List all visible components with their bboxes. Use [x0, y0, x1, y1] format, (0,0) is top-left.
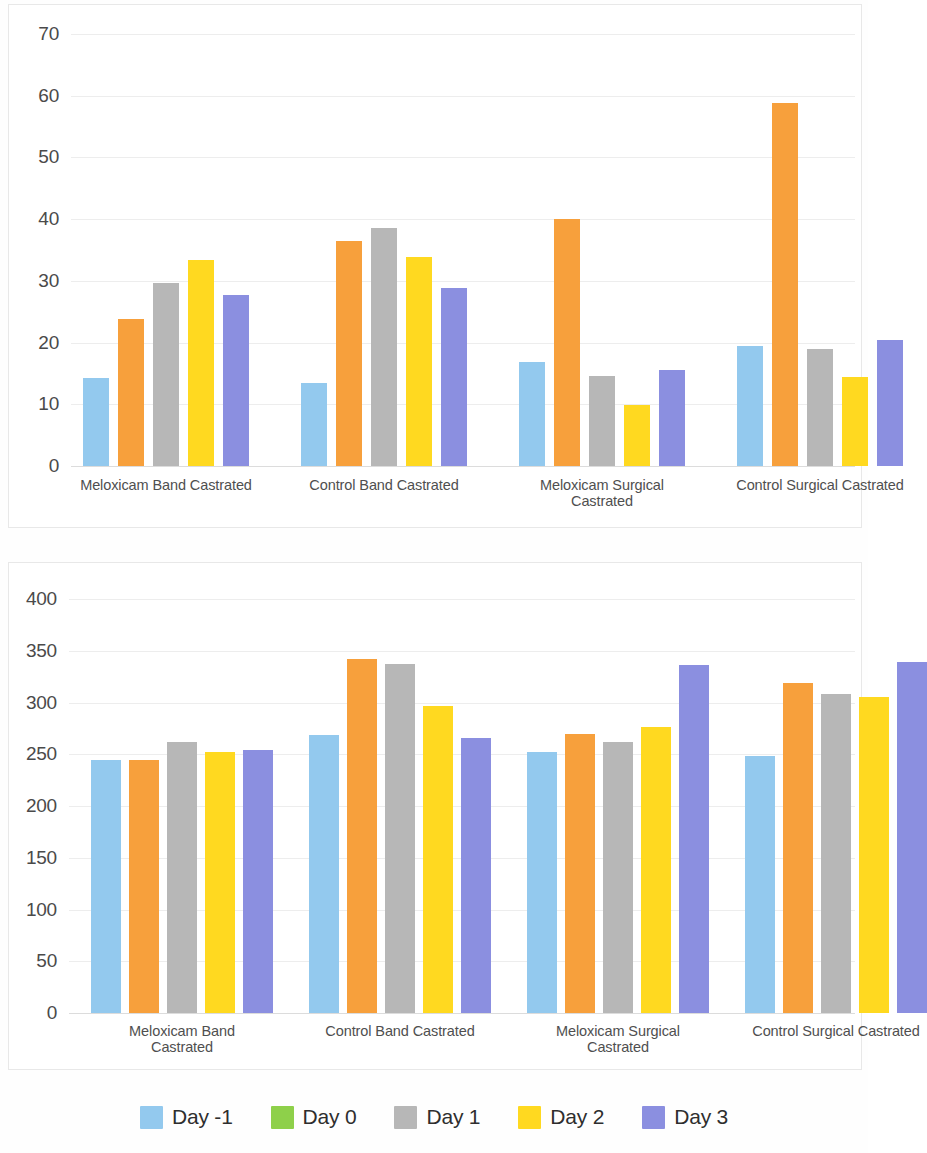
- bar: [167, 742, 197, 1013]
- bar: [188, 260, 214, 466]
- y-axis-tick-label: 100: [9, 899, 57, 921]
- y-axis-tick-label: 70: [9, 23, 59, 45]
- plot-area-bottom: 050100150200250300350400Meloxicam BandCa…: [9, 563, 861, 1069]
- gridline: [71, 34, 855, 35]
- bar: [519, 362, 545, 466]
- axis-baseline: [71, 466, 855, 467]
- x-axis-group-label: Control Band Castrated: [325, 1023, 474, 1039]
- bar: [565, 734, 595, 1013]
- y-axis-tick-label: 400: [9, 588, 57, 610]
- bar: [859, 697, 889, 1013]
- legend-swatch-icon: [518, 1106, 541, 1129]
- chart-legend: Day -1Day 0Day 1Day 2Day 3: [0, 1105, 868, 1129]
- legend-item-label: Day 1: [426, 1105, 480, 1129]
- bar: [783, 683, 813, 1013]
- bar: [589, 376, 615, 466]
- y-axis-tick-label: 50: [9, 950, 57, 972]
- bar: [821, 694, 851, 1013]
- y-axis-tick-label: 150: [9, 847, 57, 869]
- x-axis-group-label: Meloxicam BandCastrated: [129, 1023, 235, 1055]
- bar: [118, 319, 144, 466]
- legend-item-label: Day 0: [303, 1105, 357, 1129]
- y-axis-tick-label: 200: [9, 795, 57, 817]
- bar: [129, 760, 159, 1013]
- bar: [406, 257, 432, 466]
- legend-item[interactable]: Day 2: [518, 1105, 604, 1129]
- x-axis-group-label-line1: Meloxicam Surgical: [540, 477, 664, 493]
- legend-item[interactable]: Day 1: [394, 1105, 480, 1129]
- y-axis-tick-label: 10: [9, 393, 59, 415]
- bar: [243, 750, 273, 1013]
- x-axis-group-label-line2: Castrated: [129, 1039, 235, 1055]
- legend-item-label: Day 2: [550, 1105, 604, 1129]
- plot-area-top: 010203040506070Meloxicam Band CastratedC…: [9, 5, 861, 527]
- bar: [807, 349, 833, 466]
- legend-swatch-icon: [394, 1106, 417, 1129]
- y-axis-tick-label: 0: [9, 1002, 57, 1024]
- y-axis-tick-label: 20: [9, 332, 59, 354]
- bar: [679, 665, 709, 1013]
- y-axis-tick-label: 350: [9, 640, 57, 662]
- chart-panel-bottom: 050100150200250300350400Meloxicam BandCa…: [8, 562, 862, 1070]
- bar: [772, 103, 798, 466]
- bar: [153, 283, 179, 466]
- bar: [301, 383, 327, 466]
- y-axis-tick-label: 0: [9, 455, 59, 477]
- x-axis-group-label-line1: Meloxicam Surgical: [556, 1023, 680, 1039]
- y-axis-tick-label: 50: [9, 146, 59, 168]
- bar: [897, 662, 927, 1013]
- bar: [441, 288, 467, 466]
- bar: [91, 760, 121, 1013]
- bar: [745, 756, 775, 1013]
- bar: [527, 752, 557, 1013]
- bar: [737, 346, 763, 466]
- bar: [223, 295, 249, 466]
- bar: [371, 228, 397, 466]
- y-axis-tick-label: 30: [9, 270, 59, 292]
- chart-panel-top: 010203040506070Meloxicam Band CastratedC…: [8, 4, 862, 528]
- x-axis-group-label: Meloxicam SurgicalCastrated: [540, 477, 664, 509]
- x-axis-group-label-line2: Castrated: [540, 493, 664, 509]
- bar: [83, 378, 109, 466]
- bar: [603, 742, 633, 1013]
- x-axis-group-label-line1: Control Surgical Castrated: [752, 1023, 919, 1039]
- legend-item[interactable]: Day 0: [271, 1105, 357, 1129]
- legend-swatch-icon: [642, 1106, 665, 1129]
- bar: [347, 659, 377, 1013]
- gridline: [71, 219, 855, 220]
- gridline: [71, 96, 855, 97]
- x-axis-group-label: Meloxicam Band Castrated: [80, 477, 252, 493]
- legend-item[interactable]: Day 3: [642, 1105, 728, 1129]
- x-axis-group-label-line1: Control Band Castrated: [325, 1023, 474, 1039]
- x-axis-group-label: Control Surgical Castrated: [752, 1023, 919, 1039]
- x-axis-group-label-line1: Meloxicam Band Castrated: [80, 477, 252, 493]
- legend-item[interactable]: Day -1: [140, 1105, 233, 1129]
- bar: [309, 735, 339, 1013]
- gridline: [69, 703, 855, 704]
- bar: [385, 664, 415, 1013]
- bar: [877, 340, 903, 466]
- bar: [554, 219, 580, 466]
- y-axis-tick-label: 250: [9, 743, 57, 765]
- gridline: [69, 599, 855, 600]
- bar: [205, 752, 235, 1013]
- bar: [659, 370, 685, 466]
- bar: [461, 738, 491, 1013]
- x-axis-group-label-line1: Meloxicam Band: [129, 1023, 235, 1039]
- legend-item-label: Day 3: [674, 1105, 728, 1129]
- x-axis-group-label: Control Band Castrated: [309, 477, 458, 493]
- x-axis-group-label-line2: Castrated: [556, 1039, 680, 1055]
- gridline: [71, 157, 855, 158]
- bar: [842, 377, 868, 466]
- bar: [423, 706, 453, 1013]
- y-axis-tick-label: 60: [9, 85, 59, 107]
- legend-swatch-icon: [271, 1106, 294, 1129]
- legend-item-label: Day -1: [172, 1105, 233, 1129]
- gridline: [69, 651, 855, 652]
- y-axis-tick-label: 300: [9, 692, 57, 714]
- bar: [336, 241, 362, 466]
- x-axis-group-label: Meloxicam SurgicalCastrated: [556, 1023, 680, 1055]
- bar: [641, 727, 671, 1013]
- bar: [624, 405, 650, 466]
